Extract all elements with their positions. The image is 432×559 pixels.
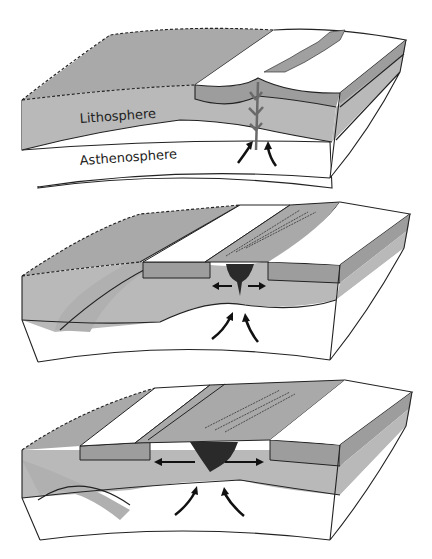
panel-stage-3 <box>0 370 432 559</box>
panel-stage-1: Lithosphere Asthenosphere <box>0 0 432 190</box>
panel-stage-2 <box>0 180 432 370</box>
